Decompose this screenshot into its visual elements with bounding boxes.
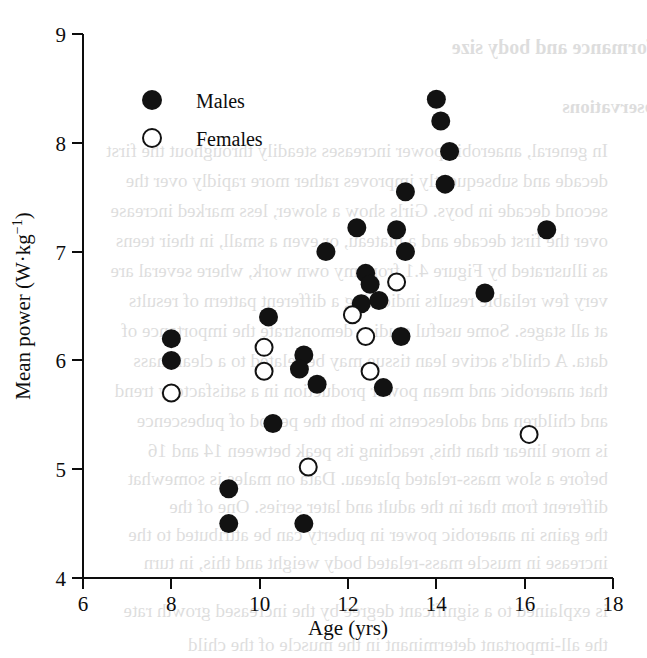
series-females-points [163, 274, 538, 476]
data-point-females [300, 459, 317, 476]
legend-label-females: Females [196, 128, 263, 150]
data-point-males [387, 220, 406, 239]
legend-marker-females [143, 129, 161, 147]
chart-legend: Males Females [142, 90, 263, 150]
y-axis-tick-label: 7 [56, 241, 67, 265]
data-point-males [475, 283, 494, 302]
data-point-males [369, 291, 388, 310]
data-point-males [396, 242, 415, 261]
data-point-males [316, 242, 335, 261]
data-point-males [162, 351, 181, 370]
scatter-plot-canvas: 456789 681012141618 Age (yrs) Mean power… [0, 0, 647, 658]
legend-label-males: Males [196, 90, 245, 112]
y-axis-tick-label: 8 [56, 132, 67, 156]
y-axis-tick-label: 4 [56, 567, 67, 591]
x-axis-tick-label: 12 [338, 592, 359, 616]
data-point-males [259, 307, 278, 326]
x-axis-tick-label: 8 [166, 592, 177, 616]
data-point-females [362, 363, 379, 380]
data-point-females [521, 426, 538, 443]
x-axis-title: Age (yrs) [308, 616, 388, 640]
data-point-males [219, 479, 238, 498]
data-point-males [392, 327, 411, 346]
y-axis-title-group: Mean power (W·kg−1) [10, 212, 35, 400]
data-point-males [436, 175, 455, 194]
x-axis-tick-label: 18 [603, 592, 624, 616]
data-point-males [396, 182, 415, 201]
data-point-males [347, 218, 366, 237]
x-axis-ticks: 681012141618 [78, 578, 624, 616]
data-point-males [361, 275, 380, 294]
data-point-females [256, 363, 273, 380]
data-point-males [308, 375, 327, 394]
x-axis-tick-label: 10 [249, 592, 270, 616]
data-point-males [294, 514, 313, 533]
data-point-males [427, 90, 446, 109]
y-axis-title: Mean power (W·kg−1) [10, 212, 35, 400]
data-point-males [219, 514, 238, 533]
y-axis-tick-label: 6 [56, 349, 67, 373]
data-point-females [357, 328, 374, 345]
data-point-males [431, 112, 450, 131]
y-axis-ticks: 456789 [56, 23, 84, 591]
data-point-males [290, 360, 309, 379]
data-point-females [256, 339, 273, 356]
x-axis-tick-label: 14 [426, 592, 448, 616]
data-point-males [263, 414, 282, 433]
data-point-males [374, 378, 393, 397]
data-point-females [344, 306, 361, 323]
legend-marker-males [142, 90, 162, 110]
data-point-males [440, 142, 459, 161]
y-axis-tick-label: 5 [56, 458, 67, 482]
x-axis-tick-label: 16 [514, 592, 535, 616]
y-axis-tick-label: 9 [56, 23, 67, 47]
x-axis-tick-label: 6 [78, 592, 89, 616]
data-point-females [163, 385, 180, 402]
data-point-females [388, 274, 405, 291]
data-point-males [162, 329, 181, 348]
data-point-males [537, 220, 556, 239]
axis-lines [83, 34, 613, 578]
scatter-figure: Anaerobic performance and body sizeAge-r… [0, 0, 647, 658]
